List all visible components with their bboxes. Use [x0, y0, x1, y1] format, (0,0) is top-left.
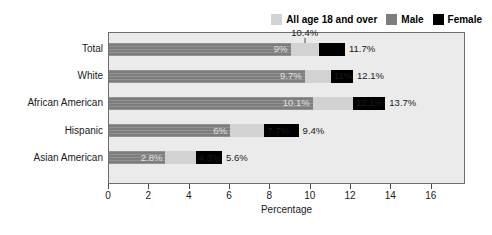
- legend-swatch-all-age-18-and-over: [271, 14, 282, 25]
- x-axis-tick-label: 0: [105, 190, 111, 201]
- bar-group-hispanic: 9.4%7.7%6%: [109, 124, 299, 137]
- bar-value-label-all-age-18-and-over: 7.7%: [267, 126, 289, 136]
- bar-group-white: 12.1%11%9.7%: [109, 70, 353, 83]
- chart-container: All age 18 and over Male Female TotalWhi…: [0, 0, 492, 235]
- bar-segment-male: 6%: [109, 124, 230, 137]
- bar-group-total: 11.7%9%: [109, 43, 345, 56]
- legend-swatch-male: [386, 14, 397, 25]
- bar-value-label-all-age-18-and-over: 12.1%: [356, 99, 383, 109]
- y-axis-label-african-american: African American: [27, 97, 103, 108]
- plot-area: 11.7%9%10.4%12.1%11%9.7%13.7%12.1%10.1%9…: [108, 32, 465, 184]
- y-axis-label-hispanic: Hispanic: [65, 124, 103, 135]
- bar-value-label-male: 10.1%: [283, 99, 310, 109]
- bar-value-label-male: 9.7%: [280, 71, 302, 81]
- x-axis-tick-label: 8: [267, 190, 273, 201]
- x-axis-tick: [269, 184, 270, 189]
- bar-value-label-female: 12.1%: [357, 71, 384, 81]
- bar-segment-male: 2.8%: [109, 151, 165, 164]
- x-axis-tick: [108, 184, 109, 189]
- bar-value-label-male: 6%: [213, 126, 227, 136]
- x-axis-tick: [189, 184, 190, 189]
- x-axis-tick-label: 6: [226, 190, 232, 201]
- bar-value-label-male: 2.8%: [141, 153, 163, 163]
- x-axis-tick-label: 12: [344, 190, 355, 201]
- y-axis-label-total: Total: [82, 43, 103, 54]
- legend-item-male: Male: [386, 14, 423, 25]
- bar-segment-male: 9%: [109, 43, 291, 56]
- x-axis-tick-label: 16: [425, 190, 436, 201]
- bar-value-label-female: 13.7%: [389, 99, 416, 109]
- y-axis-label-asian-american: Asian American: [34, 151, 103, 162]
- callout-leader-line: [305, 38, 306, 43]
- x-axis-tick: [390, 184, 391, 189]
- bar-value-callout-all-age-18-and-over: 10.4%: [291, 27, 318, 38]
- chart-legend: All age 18 and over Male Female: [210, 10, 482, 28]
- bar-segment-male: 9.7%: [109, 70, 305, 83]
- x-axis-tick: [350, 184, 351, 189]
- bar-group-african-american: 13.7%12.1%10.1%: [109, 97, 385, 110]
- legend-label-male: Male: [401, 14, 423, 25]
- y-axis-label-white: White: [77, 70, 103, 81]
- x-axis-tick: [310, 184, 311, 189]
- legend-label-all-age-18-and-over: All age 18 and over: [286, 14, 377, 25]
- x-axis-title: Percentage: [108, 204, 465, 215]
- y-axis-labels: TotalWhiteAfrican AmericanHispanicAsian …: [0, 32, 103, 184]
- bar-value-label-female: 11.7%: [349, 44, 375, 54]
- bar-value-label-female: 5.6%: [226, 153, 248, 163]
- x-axis-tick: [229, 184, 230, 189]
- bar-segment-male: 10.1%: [109, 97, 313, 110]
- bar-value-label-all-age-18-and-over: 4.3%: [199, 153, 221, 163]
- plot-inner: 11.7%9%10.4%12.1%11%9.7%13.7%12.1%10.1%9…: [109, 33, 464, 183]
- legend-swatch-female: [433, 14, 444, 25]
- legend-item-female: Female: [433, 14, 482, 25]
- x-axis-tick-label: 4: [186, 190, 192, 201]
- bar-group-asian-american: 5.6%4.3%2.8%: [109, 151, 222, 164]
- legend-label-female: Female: [448, 14, 482, 25]
- legend-item-all-age-18-and-over: All age 18 and over: [271, 14, 377, 25]
- x-axis-tick-label: 2: [146, 190, 152, 201]
- x-axis-tick-label: 14: [385, 190, 396, 201]
- x-axis-tick-label: 10: [304, 190, 315, 201]
- x-axis-tick: [431, 184, 432, 189]
- bar-value-label-all-age-18-and-over: 11%: [334, 71, 352, 81]
- bar-value-label-female: 9.4%: [303, 126, 325, 136]
- x-axis-tick: [148, 184, 149, 189]
- bar-value-label-male: 9%: [274, 44, 288, 54]
